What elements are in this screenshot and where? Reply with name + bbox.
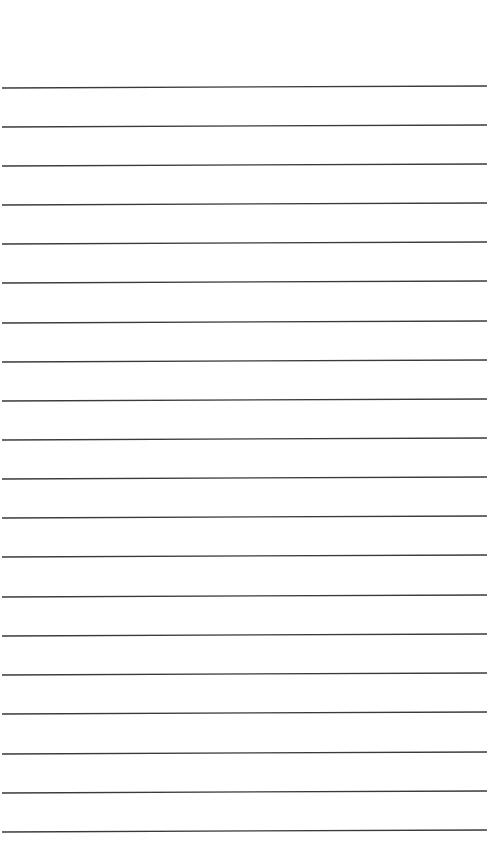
ruled-line	[2, 752, 487, 754]
ruled-line	[2, 477, 487, 479]
ruled-line	[2, 203, 487, 205]
ruled-line	[2, 595, 487, 597]
ruled-line	[2, 634, 487, 636]
ruled-line	[2, 242, 487, 244]
ruled-line	[2, 555, 487, 557]
ruled-line	[2, 830, 487, 832]
ruled-line	[2, 360, 487, 362]
ruled-line	[2, 125, 487, 127]
ruled-line	[2, 399, 487, 401]
ruled-line	[2, 281, 487, 283]
ruled-line	[2, 164, 487, 166]
ruled-line	[2, 712, 487, 714]
ruled-line	[2, 673, 487, 675]
ruled-line	[2, 516, 487, 518]
ruled-line	[2, 321, 487, 323]
ruled-line	[2, 791, 487, 793]
ruled-line	[2, 438, 487, 440]
lined-paper	[0, 0, 494, 862]
ruled-line	[2, 86, 487, 88]
